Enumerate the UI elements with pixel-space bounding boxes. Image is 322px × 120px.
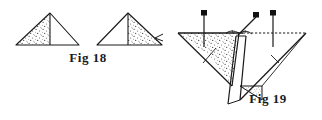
fig18-label: Fig 18 <box>69 50 106 65</box>
fig19-diagram <box>155 10 306 104</box>
figure-canvas: Fig 18 <box>0 0 322 120</box>
fig19-right-sheet-inner-edge <box>262 33 306 86</box>
fig19-flap-bottom-edge <box>228 100 240 104</box>
figures-svg: Fig 18 <box>0 0 322 120</box>
pin-right-icon <box>270 10 276 47</box>
fig18-triangle-right <box>97 8 168 50</box>
fig19-crease-mark-b <box>271 55 279 63</box>
fig19-flap-right-edge <box>240 36 246 100</box>
fig18-triangle-left <box>10 8 79 50</box>
fig19-label: Fig 19 <box>249 91 286 106</box>
